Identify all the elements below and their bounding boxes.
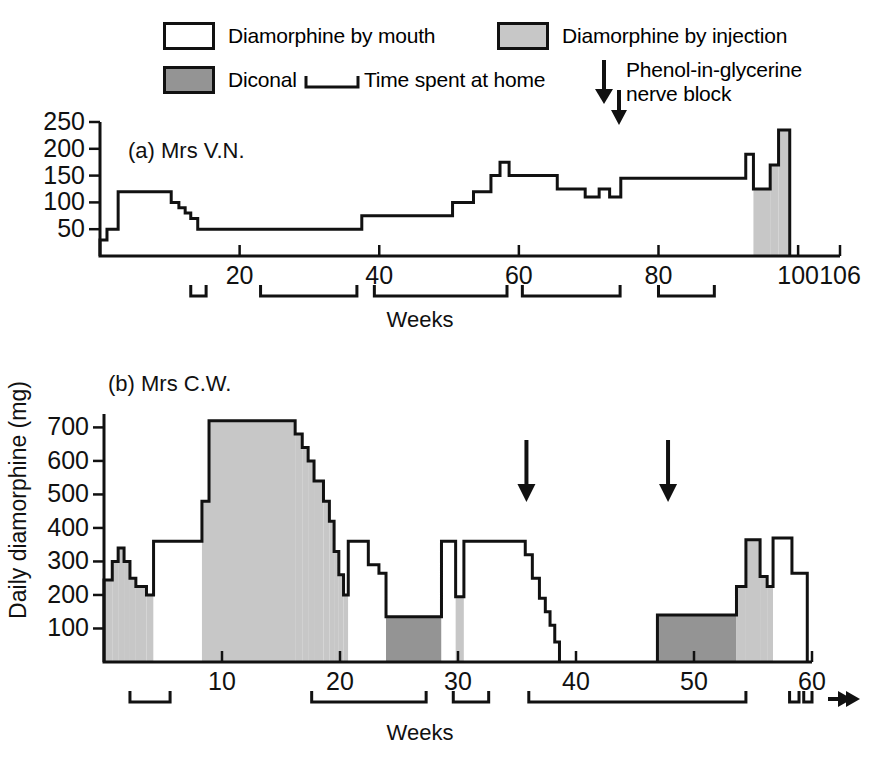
dose-segment-injection [760, 577, 767, 662]
dose-segment-injection [295, 434, 302, 662]
dose-segment-injection [130, 578, 136, 662]
dose-segment-mouth [154, 541, 202, 662]
dose-segment-mouth [585, 197, 599, 256]
dose-segment-mouth [362, 216, 453, 256]
axis-label-y: Daily diamorphine (mg) [5, 381, 31, 619]
x-tick-label: 40 [365, 261, 393, 289]
dose-segment-injection [308, 461, 314, 662]
dose-segment-mouth [599, 189, 609, 256]
y-tick-label: 200 [43, 134, 85, 162]
x-tick-label: 10 [208, 667, 236, 695]
panel-a-title: (a) Mrs V.N. [128, 138, 245, 163]
dose-segment-mouth [610, 197, 621, 256]
x-tick-label: 40 [562, 667, 590, 695]
y-tick-label: 600 [47, 446, 89, 474]
x-tick-label: 30 [444, 667, 472, 695]
dose-segment-mouth [453, 202, 474, 256]
dose-segment-mouth [621, 178, 746, 256]
y-tick-label: 300 [47, 546, 89, 574]
panel-b: 100200300400500600700102030405060 [47, 412, 860, 707]
x-tick-label: 20 [326, 667, 354, 695]
dose-segment-injection [746, 540, 760, 662]
y-tick-label: 250 [43, 107, 85, 135]
dose-segment-mouth [792, 573, 807, 662]
panel-a: 5010015020025020406080100106 [43, 107, 861, 296]
nerve-block-arrow [659, 440, 677, 502]
dose-segment-injection [323, 501, 329, 662]
dose-segment-mouth [441, 541, 455, 662]
dose-segment-injection [314, 481, 323, 662]
dose-segment-diconal [386, 617, 441, 662]
x-tick-label: 60 [505, 261, 533, 289]
x-tick-label: 100 [777, 261, 819, 289]
dose-segment-mouth [368, 565, 379, 662]
dose-segment-injection [136, 587, 147, 662]
home-period-bracket [790, 691, 799, 702]
dose-segment-diconal [657, 615, 736, 662]
y-tick-label: 150 [43, 161, 85, 189]
dose-segment-injection [146, 595, 153, 662]
dose-segment-mouth [773, 538, 792, 662]
panel-a-xlabel: Weeks [387, 307, 454, 332]
y-tick-label: 500 [47, 479, 89, 507]
plot-canvas: Daily diamorphine (mg) (a) Mrs V.N. (b) … [0, 0, 886, 757]
dose-segment-injection [753, 189, 770, 256]
y-tick-label: 100 [43, 187, 85, 215]
x-tick-label: 60 [798, 667, 826, 695]
home-period-bracket [130, 691, 170, 702]
y-tick-label: 200 [47, 580, 89, 608]
dose-segment-injection [118, 548, 124, 662]
dose-segment-mouth [464, 541, 525, 662]
x-tick-label: 20 [226, 261, 254, 289]
dose-segment-mouth [171, 202, 179, 256]
y-tick-label: 700 [47, 412, 89, 440]
home-period-bracket [261, 285, 357, 296]
figure-root: Diamorphine by mouth Diamorphine by inje… [0, 0, 886, 757]
dose-segment-mouth [198, 229, 362, 256]
x-tick-label: 50 [680, 667, 708, 695]
dose-segment-mouth [179, 208, 185, 256]
dose-segment-mouth [557, 189, 585, 256]
x-tick-label: 80 [645, 261, 673, 289]
continues-arrow-icon [828, 691, 860, 707]
dose-segment-injection [767, 587, 773, 662]
dose-segment-mouth [118, 192, 171, 256]
dose-segment-injection [209, 421, 295, 662]
y-tick-label: 100 [47, 613, 89, 641]
nerve-block-arrow [517, 440, 535, 502]
panel-a-nerve-block-arrow [611, 90, 627, 125]
home-period-bracket [191, 285, 206, 296]
y-tick-label: 50 [57, 214, 85, 242]
dose-segment-mouth [473, 192, 490, 256]
dose-segment-mouth [107, 229, 118, 256]
dose-segment-mouth [348, 541, 368, 662]
home-period-bracket [522, 285, 620, 296]
dose-segment-injection [302, 448, 308, 662]
x-tick-label: 106 [819, 261, 861, 289]
y-tick-label: 400 [47, 513, 89, 541]
home-period-bracket [374, 285, 507, 296]
dose-segment-injection [344, 595, 349, 662]
dose-segment-injection [779, 130, 790, 256]
dose-segment-mouth [509, 176, 557, 256]
panel-b-xlabel: Weeks [387, 720, 454, 745]
panel-b-title: (b) Mrs C.W. [108, 371, 231, 396]
